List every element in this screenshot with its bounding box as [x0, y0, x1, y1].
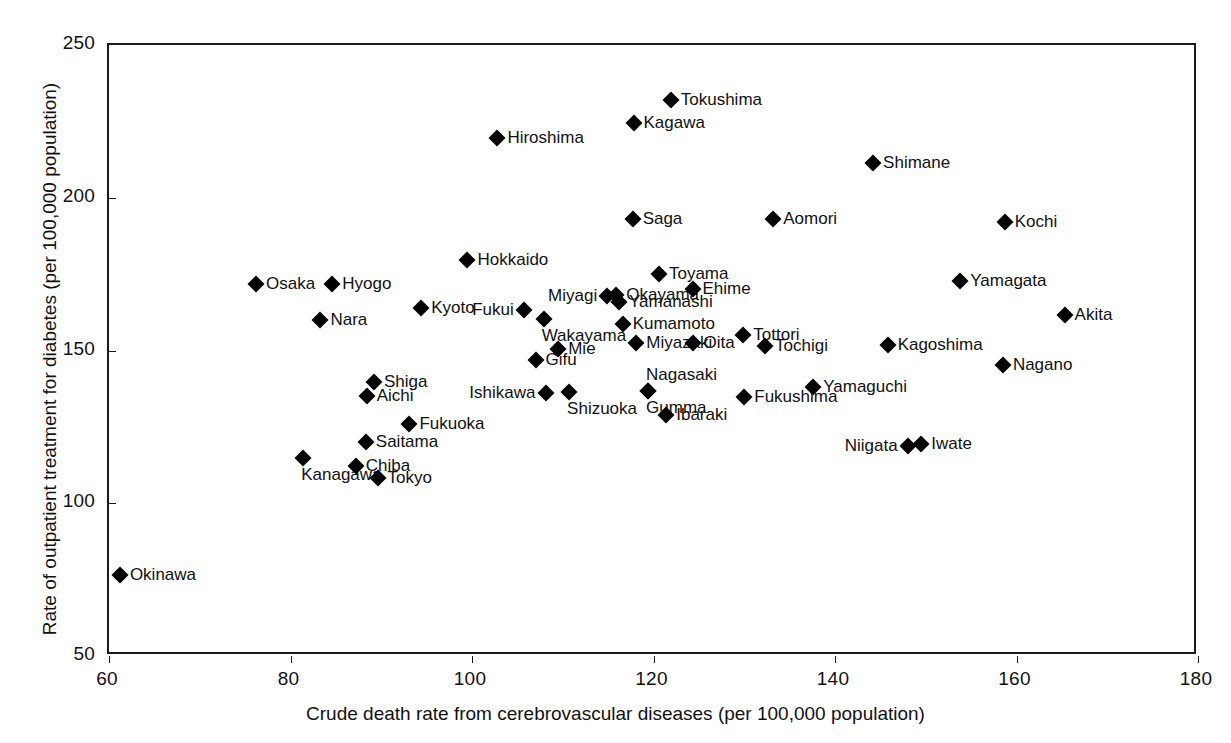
scatter-chart-figure: OkinawaOsakaKanagawaNaraHyogoChibaAichiS… — [0, 0, 1231, 743]
diamond-marker-icon — [952, 272, 969, 289]
x-tick-label: 80 — [278, 668, 300, 690]
data-point-label: Hiroshima — [507, 129, 584, 146]
x-tick-mark — [1198, 656, 1199, 663]
diamond-marker-icon — [736, 389, 753, 406]
data-point-label: Kumamoto — [633, 315, 715, 332]
data-point-label: Saga — [643, 210, 683, 227]
data-point-label: Fukui — [472, 301, 514, 318]
diamond-marker-icon — [625, 114, 642, 131]
x-tick-label: 140 — [817, 668, 849, 690]
data-point-label: Tochigi — [775, 337, 828, 354]
diamond-marker-icon — [650, 265, 667, 282]
y-tick-mark — [109, 198, 116, 199]
data-point-label: Kagawa — [644, 114, 705, 131]
diamond-marker-icon — [735, 326, 752, 343]
data-point-label: Kagoshima — [898, 336, 983, 353]
diamond-marker-icon — [248, 275, 265, 292]
data-point-label: Akita — [1075, 306, 1113, 323]
data-point-label: Shiga — [384, 373, 427, 390]
y-axis-title: Rate of outpatient treatment for diabete… — [39, 49, 61, 669]
diamond-marker-icon — [111, 566, 128, 583]
x-tick-mark — [109, 656, 110, 663]
x-tick-mark — [654, 656, 655, 663]
data-point-label: Yamanashi — [629, 293, 713, 310]
plot-area: OkinawaOsakaKanagawaNaraHyogoChibaAichiS… — [107, 43, 1196, 654]
diamond-marker-icon — [401, 416, 418, 433]
data-point-label: Aomori — [783, 210, 837, 227]
x-tick-label: 180 — [1180, 668, 1212, 690]
data-point-label: Miyagi — [548, 287, 597, 304]
diamond-marker-icon — [535, 311, 552, 328]
x-tick-label: 120 — [635, 668, 667, 690]
diamond-marker-icon — [913, 436, 930, 453]
diamond-marker-icon — [489, 129, 506, 146]
data-point-label: Nagasaki — [646, 366, 717, 383]
x-axis-title: Crude death rate from cerebrovascular di… — [0, 703, 1231, 725]
diamond-marker-icon — [879, 337, 896, 354]
data-point-label: Yamaguchi — [823, 378, 907, 395]
diamond-marker-icon — [865, 154, 882, 171]
x-tick-label: 160 — [998, 668, 1030, 690]
x-tick-label: 60 — [96, 668, 118, 690]
diamond-marker-icon — [537, 385, 554, 402]
data-point-label: Yamagata — [970, 272, 1046, 289]
data-point-label: Fukuoka — [419, 415, 484, 432]
x-tick-mark — [472, 656, 473, 663]
data-point-label: Shizuoka — [567, 400, 637, 417]
data-point-label: Ibaraki — [676, 406, 727, 423]
diamond-marker-icon — [357, 434, 374, 451]
diamond-marker-icon — [527, 352, 544, 369]
data-point-label: Hokkaido — [477, 251, 548, 268]
data-point-label: Ishikawa — [469, 384, 535, 401]
data-point-label: Hyogo — [342, 275, 391, 292]
diamond-marker-icon — [994, 357, 1011, 374]
data-point-label: Mie — [568, 340, 595, 357]
diamond-marker-icon — [1056, 307, 1073, 324]
diamond-marker-icon — [996, 214, 1013, 231]
x-tick-label: 100 — [454, 668, 486, 690]
data-point-label: Tokushima — [681, 91, 762, 108]
diamond-marker-icon — [413, 300, 430, 317]
diamond-marker-icon — [765, 211, 782, 228]
data-point-label: Okinawa — [130, 566, 196, 583]
data-point-label: Kochi — [1015, 213, 1058, 230]
data-point-label: Nagano — [1013, 356, 1073, 373]
data-point-label: Niigata — [845, 437, 898, 454]
diamond-marker-icon — [640, 383, 657, 400]
diamond-marker-icon — [628, 335, 645, 352]
diamond-marker-icon — [459, 251, 476, 268]
y-tick-mark — [109, 503, 116, 504]
data-point-label: Saitama — [376, 433, 438, 450]
x-tick-mark — [1017, 656, 1018, 663]
y-tick-mark — [109, 351, 116, 352]
diamond-marker-icon — [515, 302, 532, 319]
diamond-marker-icon — [662, 91, 679, 108]
diamond-marker-icon — [358, 388, 375, 405]
data-point-label: Osaka — [266, 275, 315, 292]
x-tick-mark — [291, 656, 292, 663]
diamond-marker-icon — [899, 438, 916, 455]
data-point-label: Nara — [330, 311, 367, 328]
data-point-label: Kyoto — [431, 299, 474, 316]
x-tick-mark — [835, 656, 836, 663]
data-point-label: Tokyo — [388, 469, 432, 486]
data-point-label: Iwate — [931, 435, 972, 452]
diamond-marker-icon — [295, 450, 312, 467]
diamond-marker-icon — [624, 211, 641, 228]
diamond-marker-icon — [312, 312, 329, 329]
data-point-label: Ehime — [703, 280, 751, 297]
diamond-marker-icon — [561, 384, 578, 401]
diamond-marker-icon — [324, 275, 341, 292]
data-point-label: Oita — [703, 334, 734, 351]
data-point-label: Shimane — [883, 154, 950, 171]
